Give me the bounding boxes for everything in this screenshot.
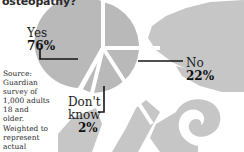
pie-label-no: No 22%: [186, 57, 214, 83]
pie-label-dont-know: Don't know 2%: [68, 96, 101, 135]
pie-label-yes-value: 76%: [27, 40, 55, 53]
pie-label-no-value: 22%: [186, 70, 214, 83]
pie-label-yes: Yes 76%: [27, 27, 55, 53]
page-title: osteopathy?: [2, 0, 76, 8]
infographic-page: osteopathy? Yes 76% No 22% Don't know 2%…: [0, 0, 244, 152]
source-note: Source: Guardian survey of 1,000 adults …: [3, 69, 51, 152]
pie-label-dont-know-value: 2%: [78, 122, 101, 135]
